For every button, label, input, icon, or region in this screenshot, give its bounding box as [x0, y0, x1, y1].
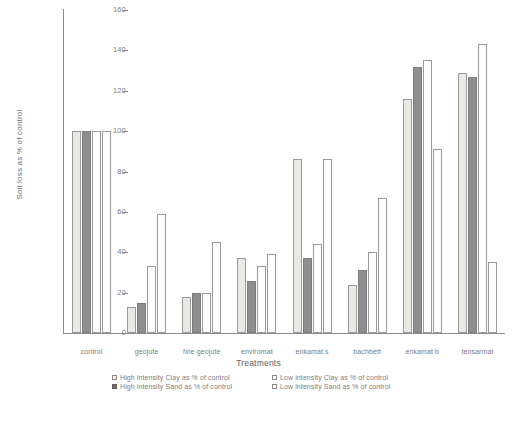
y-axis-title: Soil loss as % of control — [15, 40, 24, 270]
bar-group — [72, 10, 111, 333]
soil-loss-bar-chart: Soil loss as % of control 02040608010012… — [0, 0, 517, 421]
y-axis-tick-mark — [123, 333, 128, 334]
x-axis-category-label: enkamat s — [285, 348, 340, 355]
x-axis-category-label: enviromat — [229, 348, 284, 355]
bar-group — [127, 10, 166, 333]
x-axis-line — [63, 333, 505, 334]
bar — [267, 254, 276, 333]
legend-label: Low intensity Clay as % of control — [280, 374, 388, 381]
bar — [313, 244, 322, 333]
legend-label: High intensity Clay as % of control — [120, 374, 230, 381]
bar — [92, 131, 101, 333]
legend-row: High intensity Sand as % of control Low … — [112, 383, 412, 390]
bar — [82, 131, 91, 333]
bar — [458, 73, 467, 333]
bar — [182, 297, 191, 333]
bar — [403, 99, 412, 333]
bar-group — [348, 10, 387, 333]
filled-square-icon — [112, 384, 117, 389]
bar — [157, 214, 166, 333]
bar — [102, 131, 111, 333]
bar — [72, 131, 81, 333]
bar — [468, 77, 477, 333]
bar — [478, 44, 487, 333]
bar — [348, 285, 357, 333]
legend-item-low-clay: Low intensity Clay as % of control — [272, 374, 388, 381]
bar — [237, 258, 246, 333]
bar — [378, 198, 387, 333]
bar — [192, 293, 201, 333]
bar-group — [293, 10, 332, 333]
bar — [423, 60, 432, 333]
bar — [257, 266, 266, 333]
x-axis-category-label: geojute — [119, 348, 174, 355]
legend-label: Low intensity Sand as % of control — [280, 383, 390, 390]
plot-area: 020406080100120140160 controlgeojutefine… — [64, 10, 505, 333]
bar — [293, 159, 302, 333]
legend-item-low-sand: Low intensity Sand as % of control — [272, 383, 390, 390]
bar-group — [458, 10, 497, 333]
open-square-icon — [272, 384, 277, 389]
bar — [147, 266, 156, 333]
bar — [323, 159, 332, 333]
legend-row: High intensity Clay as % of control Low … — [112, 374, 412, 381]
x-axis-category-label: enkamat b — [395, 348, 450, 355]
bar-group — [403, 10, 442, 333]
bar — [247, 281, 256, 333]
bar — [303, 258, 312, 333]
bar — [137, 303, 146, 333]
x-axis-category-label: fine geojute — [174, 348, 229, 355]
bar — [202, 293, 211, 333]
legend-item-high-sand: High intensity Sand as % of control — [112, 383, 272, 390]
legend-item-high-clay: High intensity Clay as % of control — [112, 374, 272, 381]
x-axis-category-label: tensarmat — [450, 348, 505, 355]
open-square-icon — [272, 375, 277, 380]
bar — [488, 262, 497, 333]
bar-group — [237, 10, 276, 333]
legend-label: High intensity Sand as % of control — [120, 383, 232, 390]
x-axis-category-label: bachbett — [340, 348, 395, 355]
bar — [212, 242, 221, 333]
bar-group — [182, 10, 221, 333]
x-axis-title: Treatments — [0, 358, 517, 368]
bar — [127, 307, 136, 333]
chart-legend: High intensity Clay as % of control Low … — [112, 374, 412, 392]
x-axis-category-label: control — [64, 348, 119, 355]
bar — [433, 149, 442, 333]
bar — [358, 270, 367, 333]
open-light-square-icon — [112, 375, 117, 380]
bar — [368, 252, 377, 333]
bar — [413, 67, 422, 333]
